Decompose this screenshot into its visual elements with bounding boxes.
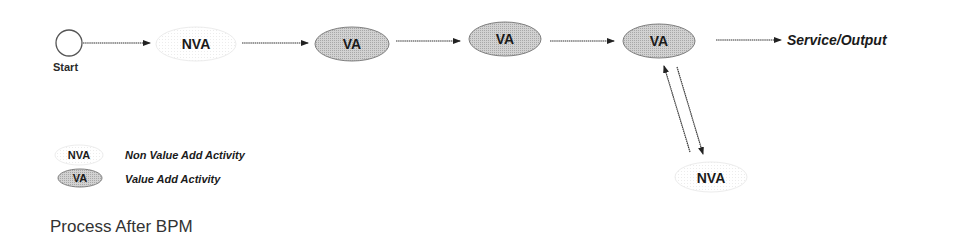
process-flow-diagram: Start NVA VA VA VA Service/Output NVA — [0, 0, 970, 242]
legend: NVA Non Value Add Activity VA Value Add … — [55, 145, 246, 187]
node-va-2: VA — [469, 22, 541, 56]
node-label: VA — [343, 36, 361, 52]
legend-item-nva: NVA Non Value Add Activity — [55, 145, 246, 165]
node-label: NVA — [182, 36, 211, 52]
legend-item-va: VA Value Add Activity — [58, 169, 221, 187]
start-node: Start — [53, 30, 82, 73]
legend-description: Value Add Activity — [125, 173, 221, 185]
edge-nva-2-to-va-3 — [664, 66, 690, 152]
node-label: NVA — [697, 170, 726, 186]
legend-symbol: VA — [73, 172, 88, 184]
node-nva-2: NVA — [675, 162, 747, 192]
legend-symbol: NVA — [68, 149, 90, 161]
node-label: VA — [650, 33, 668, 49]
legend-description: Non Value Add Activity — [125, 149, 246, 161]
node-label: VA — [496, 31, 514, 47]
node-va-3: VA — [623, 24, 695, 58]
start-label: Start — [53, 61, 78, 73]
diagram-title: Process After BPM — [50, 217, 193, 236]
node-va-1: VA — [315, 27, 389, 61]
start-circle-icon — [56, 30, 82, 56]
edge-va-3-to-nva-2 — [677, 67, 703, 154]
output-label: Service/Output — [787, 32, 888, 48]
node-nva-1: NVA — [156, 27, 236, 61]
